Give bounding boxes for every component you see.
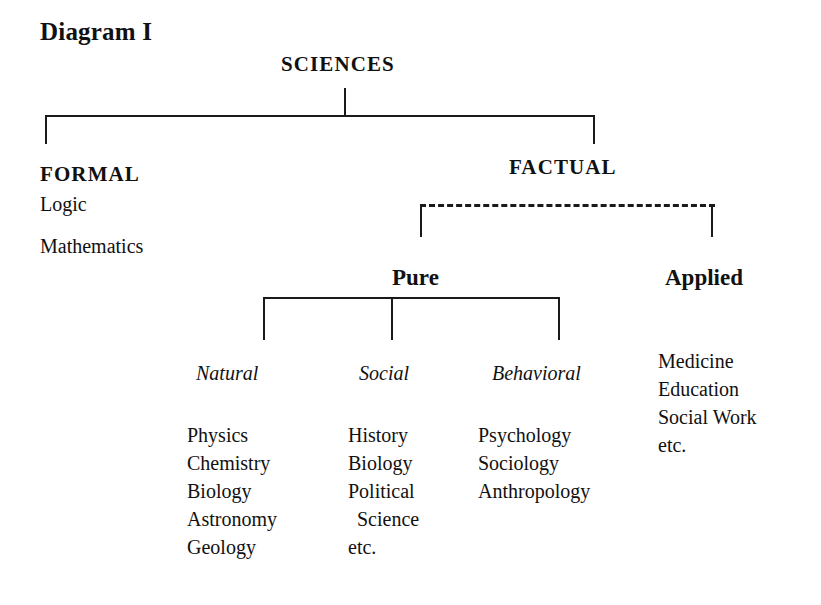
natural-items: Physics Chemistry Biology Astronomy Geol… [187, 421, 277, 561]
connector-sciences-bar [45, 115, 595, 117]
social-item: Political [348, 477, 419, 505]
figure-title: Diagram I [40, 18, 152, 46]
connector-formal-drop [45, 117, 47, 144]
natural-item: Geology [187, 533, 277, 561]
node-factual-label: FACTUAL [509, 155, 617, 180]
node-applied-label: Applied [665, 265, 743, 291]
connector-applied-drop [711, 207, 713, 237]
applied-item: Medicine [658, 347, 757, 375]
social-items: History Biology Political Science etc. [348, 421, 419, 561]
natural-item: Astronomy [187, 505, 277, 533]
node-pure-label: Pure [392, 265, 439, 291]
connector-sciences-stem [344, 88, 346, 116]
applied-item: etc. [658, 431, 757, 459]
applied-item: Social Work [658, 403, 757, 431]
connector-factual-dashed-bar [420, 204, 715, 207]
applied-item: Education [658, 375, 757, 403]
social-item: Biology [348, 449, 419, 477]
natural-item: Chemistry [187, 449, 277, 477]
behavioral-item: Psychology [478, 421, 590, 449]
behavioral-item: Sociology [478, 449, 590, 477]
node-natural-label: Natural [196, 362, 258, 385]
node-behavioral-label: Behavioral [492, 362, 581, 385]
formal-item: Mathematics [40, 232, 143, 260]
node-formal-label: FORMAL [40, 162, 140, 187]
social-item: Science [348, 505, 419, 533]
natural-item: Biology [187, 477, 277, 505]
diagram-canvas: Diagram I SCIENCES FORMAL Logic Mathemat… [0, 0, 821, 605]
connector-natural-drop [263, 299, 265, 340]
natural-item: Physics [187, 421, 277, 449]
connector-pure-bar [263, 297, 560, 299]
behavioral-item: Anthropology [478, 477, 590, 505]
formal-items: Logic Mathematics [40, 190, 143, 260]
node-social-label: Social [359, 362, 409, 385]
social-item: etc. [348, 533, 419, 561]
behavioral-items: Psychology Sociology Anthropology [478, 421, 590, 505]
connector-behavioral-drop [558, 299, 560, 340]
applied-items: Medicine Education Social Work etc. [658, 347, 757, 459]
social-item: History [348, 421, 419, 449]
connector-social-drop [391, 299, 393, 340]
connector-factual-drop [593, 117, 595, 144]
node-sciences-label: SCIENCES [281, 52, 395, 77]
connector-pure-drop [420, 207, 422, 237]
formal-item: Logic [40, 190, 143, 218]
